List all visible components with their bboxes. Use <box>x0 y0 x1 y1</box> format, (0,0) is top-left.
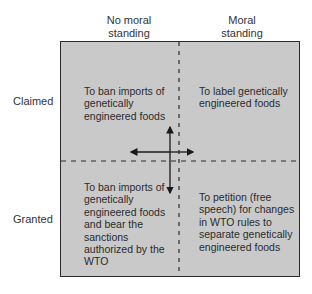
diagram-lines <box>0 0 312 294</box>
